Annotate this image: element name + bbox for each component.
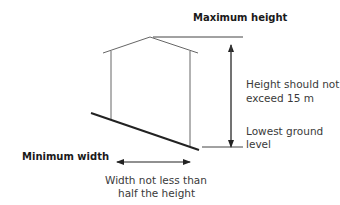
width-note-line2: half the height bbox=[118, 187, 195, 200]
min-width-label: Minimum width bbox=[22, 150, 109, 163]
height-note-line1: Height should not bbox=[246, 78, 339, 91]
max-height-label: Maximum height bbox=[193, 11, 287, 24]
height-note-line2: exceed 15 m bbox=[246, 92, 314, 105]
sloped-ground-line bbox=[91, 113, 199, 150]
house-outline bbox=[103, 37, 198, 146]
ground-label-line1: Lowest ground bbox=[246, 125, 323, 138]
ground-label-line2: level bbox=[246, 138, 271, 151]
width-note-line1: Width not less than bbox=[105, 174, 207, 187]
